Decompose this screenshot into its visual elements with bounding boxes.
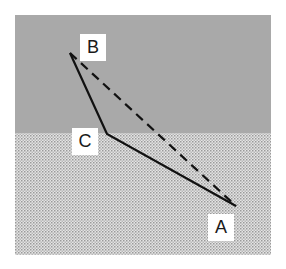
point-label-b-text: B: [87, 37, 99, 58]
upper-region: [15, 15, 271, 133]
point-label-c-text: C: [79, 131, 92, 152]
point-label-a-text: A: [215, 217, 227, 238]
point-label-a: A: [208, 214, 234, 241]
point-label-c: C: [72, 128, 98, 155]
diagram-canvas: [0, 0, 286, 269]
point-label-b: B: [80, 34, 106, 61]
